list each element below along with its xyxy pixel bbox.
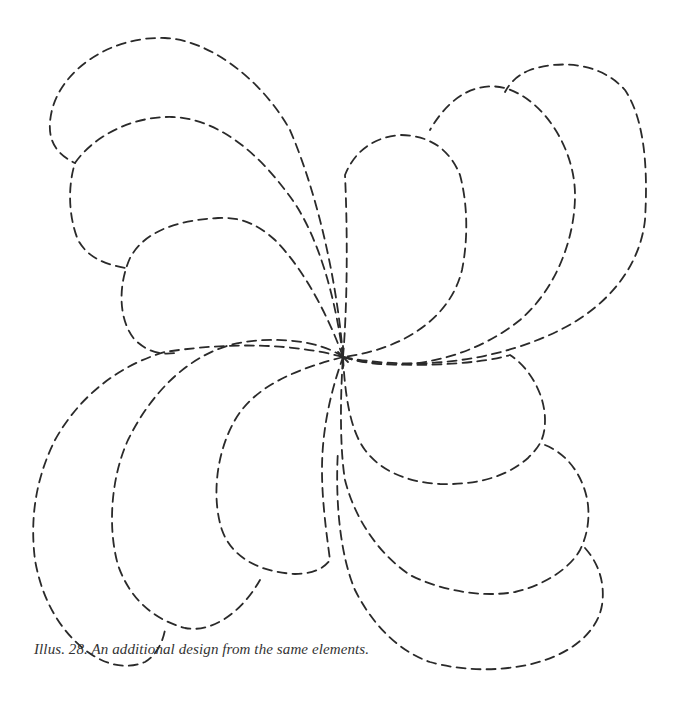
petal-top-right-inner xyxy=(343,135,466,357)
petal-bottom-left-inner xyxy=(216,357,343,574)
petal-group-top-left xyxy=(50,38,343,357)
petal-group-top-right xyxy=(343,65,646,365)
petal-top-left-inner xyxy=(122,218,343,357)
petal-bottom-left-outer xyxy=(33,346,343,666)
dashed-petal-design xyxy=(0,0,678,710)
petal-top-right-middle xyxy=(343,86,575,364)
petal-top-left-middle xyxy=(70,117,343,357)
petal-bottom-right-middle xyxy=(341,357,588,594)
petal-top-right-outer xyxy=(343,65,646,364)
petal-group-bottom-left xyxy=(33,340,343,666)
petal-group-bottom-right xyxy=(337,355,603,669)
petal-bottom-left-middle xyxy=(112,340,343,629)
petal-top-left-outer xyxy=(50,38,343,357)
petal-bottom-right-inner xyxy=(343,355,545,484)
figure-caption: Illus. 28. An additional design from the… xyxy=(34,641,369,658)
